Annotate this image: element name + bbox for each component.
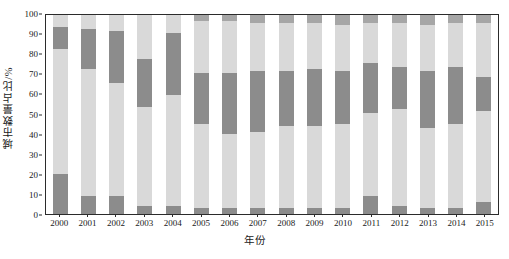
bar-column[interactable] — [74, 15, 102, 214]
bar-segment[interactable] — [363, 23, 378, 63]
x-axis-tick-label: 2012 — [386, 217, 414, 231]
stacked-bar[interactable] — [420, 15, 435, 214]
bar-segment[interactable] — [137, 59, 152, 107]
x-axis-tick-label: 2002 — [102, 217, 130, 231]
bar-segment[interactable] — [363, 63, 378, 113]
bar-segment[interactable] — [420, 25, 435, 71]
bar-segment[interactable] — [279, 15, 294, 23]
bar-segment[interactable] — [137, 15, 152, 59]
bar-column[interactable] — [46, 15, 74, 214]
bar-segment[interactable] — [307, 15, 322, 23]
bar-column[interactable] — [300, 15, 328, 214]
bar-segment[interactable] — [53, 27, 68, 49]
bar-segment[interactable] — [166, 95, 181, 206]
bar-segment[interactable] — [392, 67, 407, 109]
bar-segment[interactable] — [307, 23, 322, 69]
bar-segment[interactable] — [166, 206, 181, 214]
stacked-bar[interactable] — [476, 15, 491, 214]
bar-segment[interactable] — [448, 23, 463, 67]
bar-segment[interactable] — [363, 15, 378, 23]
bar-column[interactable] — [187, 15, 215, 214]
bar-segment[interactable] — [476, 77, 491, 111]
stacked-bar[interactable] — [307, 15, 322, 214]
stacked-bar[interactable] — [335, 15, 350, 214]
bar-segment[interactable] — [81, 15, 96, 29]
bar-segment[interactable] — [335, 25, 350, 71]
stacked-bar[interactable] — [448, 15, 463, 214]
bar-column[interactable] — [470, 15, 498, 214]
bar-segment[interactable] — [279, 71, 294, 127]
stacked-bar[interactable] — [363, 15, 378, 214]
bar-column[interactable] — [329, 15, 357, 214]
bar-segment[interactable] — [476, 202, 491, 214]
bar-segment[interactable] — [335, 15, 350, 25]
stacked-bar[interactable] — [137, 15, 152, 214]
stacked-bar[interactable] — [279, 15, 294, 214]
bar-segment[interactable] — [250, 132, 265, 208]
bar-segment[interactable] — [420, 128, 435, 208]
bar-segment[interactable] — [222, 134, 237, 208]
bar-segment[interactable] — [448, 124, 463, 208]
bar-segment[interactable] — [81, 69, 96, 196]
bar-segment[interactable] — [81, 29, 96, 69]
bar-segment[interactable] — [166, 33, 181, 95]
bar-segment[interactable] — [476, 15, 491, 23]
bar-segment[interactable] — [222, 21, 237, 73]
bar-column[interactable] — [413, 15, 441, 214]
bar-segment[interactable] — [109, 31, 124, 83]
bar-segment[interactable] — [363, 113, 378, 197]
bar-column[interactable] — [385, 15, 413, 214]
bar-segment[interactable] — [109, 83, 124, 196]
bar-column[interactable] — [131, 15, 159, 214]
bar-segment[interactable] — [194, 21, 209, 73]
bar-segment[interactable] — [279, 126, 294, 208]
bar-segment[interactable] — [81, 196, 96, 214]
bar-segment[interactable] — [137, 206, 152, 214]
bar-segment[interactable] — [448, 15, 463, 23]
bar-segment[interactable] — [307, 126, 322, 208]
bar-column[interactable] — [272, 15, 300, 214]
y-axis-tick-label: 80 — [29, 50, 38, 59]
bar-segment[interactable] — [250, 23, 265, 71]
bar-segment[interactable] — [109, 196, 124, 214]
bar-segment[interactable] — [420, 71, 435, 129]
stacked-bar[interactable] — [81, 15, 96, 214]
stacked-bar[interactable] — [222, 15, 237, 214]
bar-segment[interactable] — [279, 23, 294, 71]
bar-segment[interactable] — [166, 15, 181, 33]
bar-column[interactable] — [244, 15, 272, 214]
bar-segment[interactable] — [194, 73, 209, 125]
bar-segment[interactable] — [420, 15, 435, 25]
bar-segment[interactable] — [335, 124, 350, 208]
bar-column[interactable] — [159, 15, 187, 214]
bar-segment[interactable] — [250, 15, 265, 23]
bar-column[interactable] — [103, 15, 131, 214]
bar-segment[interactable] — [476, 111, 491, 203]
bar-segment[interactable] — [194, 124, 209, 208]
bar-column[interactable] — [442, 15, 470, 214]
stacked-bar[interactable] — [392, 15, 407, 214]
bar-segment[interactable] — [137, 107, 152, 207]
bar-segment[interactable] — [250, 71, 265, 133]
bar-segment[interactable] — [53, 15, 68, 27]
bar-segment[interactable] — [476, 23, 491, 77]
bar-segment[interactable] — [53, 174, 68, 214]
bar-segment[interactable] — [392, 109, 407, 207]
bar-segment[interactable] — [392, 23, 407, 67]
bar-segment[interactable] — [109, 15, 124, 31]
bar-column[interactable] — [357, 15, 385, 214]
bar-segment[interactable] — [392, 15, 407, 23]
bar-segment[interactable] — [222, 73, 237, 135]
stacked-bar[interactable] — [53, 15, 68, 214]
stacked-bar[interactable] — [166, 15, 181, 214]
stacked-bar[interactable] — [194, 15, 209, 214]
bar-segment[interactable] — [335, 71, 350, 125]
bar-segment[interactable] — [448, 67, 463, 125]
bar-segment[interactable] — [307, 69, 322, 127]
bar-segment[interactable] — [53, 49, 68, 174]
stacked-bar[interactable] — [250, 15, 265, 214]
stacked-bar[interactable] — [109, 15, 124, 214]
bar-segment[interactable] — [392, 206, 407, 214]
bar-segment[interactable] — [363, 196, 378, 214]
bar-column[interactable] — [216, 15, 244, 214]
